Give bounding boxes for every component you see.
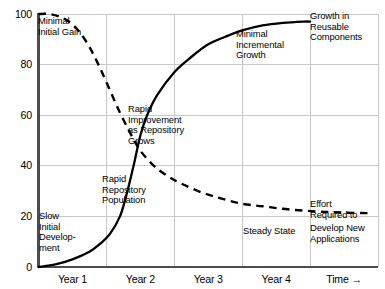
annotation-minimal-initial-gain: Minimal Initial Gain: [38, 16, 81, 37]
chart-container: 020406080100 Year 1Year 2Year 3Year 4Tim…: [0, 0, 385, 289]
y-axis-tick-label: 100: [0, 9, 32, 20]
y-axis-tick-label: 60: [0, 110, 32, 121]
y-axis-tick-label: 80: [0, 59, 32, 70]
y-axis-tick-label: 20: [0, 211, 32, 222]
annotation-rapid-repository-population: Rapid Repository Population: [102, 174, 146, 206]
annotation-slow-initial-development: Slow Initial Develop- ment: [39, 211, 76, 253]
annotation-steady-state: Steady State: [243, 226, 295, 237]
annotation-growth-in-reusable-components: Growth in Reusable Components: [310, 11, 362, 43]
annotation-effort-required: Effort Required to: [310, 199, 357, 220]
annotation-develop-new-applications: Develop New Applications: [310, 223, 365, 244]
y-axis-tick-label: 0: [0, 262, 32, 273]
series-line-1: [39, 14, 368, 213]
annotation-rapid-improvement: Rapid Improvement as Repository Grows: [128, 104, 184, 146]
x-axis-tick-label: Time →: [304, 274, 384, 285]
annotation-minimal-incremental-growth: Minimal Incremental Growth: [236, 29, 284, 61]
y-axis-tick-label: 40: [0, 160, 32, 171]
